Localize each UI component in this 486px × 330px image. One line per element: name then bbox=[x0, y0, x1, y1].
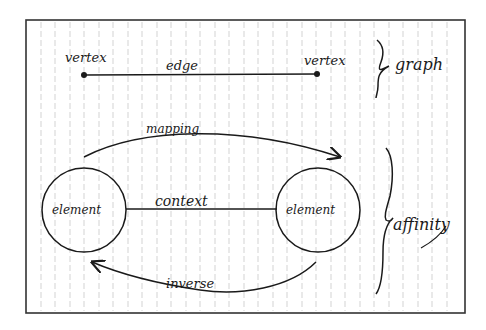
element-left-label: element bbox=[52, 203, 101, 217]
vertex-right-label: vertex bbox=[304, 53, 346, 68]
diagram-canvas: vertex vertex edge graph element element… bbox=[0, 0, 486, 330]
context-label: context bbox=[155, 193, 208, 209]
edge-label: edge bbox=[166, 58, 198, 73]
edge-line bbox=[84, 74, 317, 75]
graph-brace-label: graph bbox=[395, 55, 443, 74]
vertex-right-dot bbox=[314, 71, 320, 77]
element-right-label: element bbox=[286, 203, 335, 217]
vertex-left-label: vertex bbox=[65, 50, 107, 65]
mapping-label: mapping bbox=[146, 122, 199, 136]
inverse-label: inverse bbox=[166, 276, 214, 291]
vertex-left-dot bbox=[81, 72, 87, 78]
